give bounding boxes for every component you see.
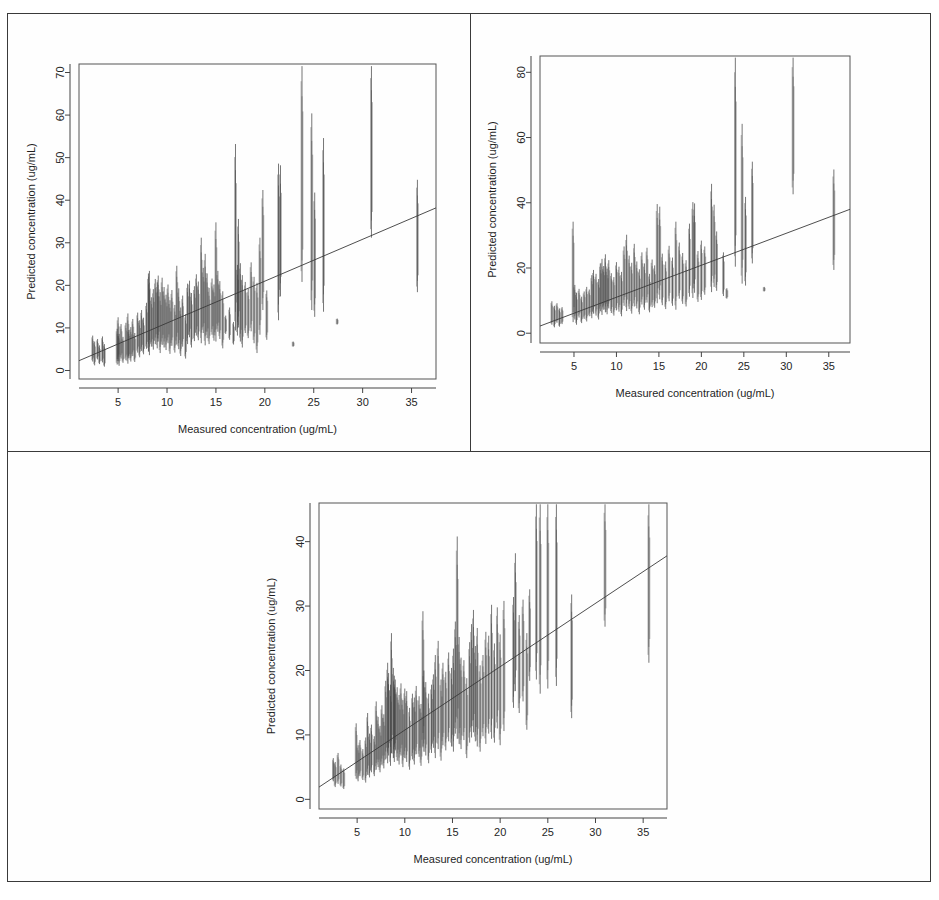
chart-panel-bottom: 5101520253035010203040Measured concentra…	[8, 453, 932, 881]
scatter-plot-svg-3: 5101520253035010203040Measured concentra…	[8, 453, 932, 881]
x-tick-label: 5	[115, 396, 121, 408]
regression-line	[79, 208, 436, 361]
x-tick-label: 20	[695, 360, 707, 372]
y-axis-title: Predicted concentration (ug/mL)	[265, 578, 277, 735]
errorbar-series	[551, 58, 835, 328]
y-tick-label: 0	[54, 367, 66, 373]
x-tick-label: 5	[571, 360, 577, 372]
scatter-plot-svg-1: 5101520253035010203040506070Measured con…	[8, 14, 470, 451]
y-tick-label: 30	[54, 237, 66, 249]
y-tick-label: 20	[54, 279, 66, 291]
y-axis-title: Predicted concentration (ug/mL)	[486, 121, 498, 278]
y-tick-label: 70	[54, 66, 66, 78]
y-tick-label: 40	[294, 536, 306, 548]
x-tick-label: 30	[357, 396, 369, 408]
y-tick-label: 20	[294, 664, 306, 676]
y-tick-label: 50	[54, 152, 66, 164]
x-tick-label: 20	[259, 396, 271, 408]
x-tick-label: 35	[405, 396, 417, 408]
x-tick-label: 5	[354, 826, 360, 838]
figure-frame: 5101520253035010203040506070Measured con…	[7, 13, 931, 882]
regression-line	[540, 209, 850, 326]
y-tick-label: 80	[515, 66, 527, 78]
x-tick-label: 30	[780, 360, 792, 372]
errorbar-series	[92, 66, 419, 367]
x-axis-title: Measured concentration (ug/mL)	[616, 387, 775, 399]
x-tick-label: 25	[542, 826, 554, 838]
regression-line	[319, 556, 667, 787]
x-axis-title: Measured concentration (ug/mL)	[414, 853, 573, 865]
y-tick-label: 40	[54, 194, 66, 206]
x-tick-label: 35	[637, 826, 649, 838]
panel-divider-horizontal	[8, 451, 930, 452]
y-tick-label: 20	[515, 262, 527, 274]
y-tick-label: 10	[54, 322, 66, 334]
y-tick-label: 30	[294, 600, 306, 612]
y-axis-title: Predicted concentration (ug/mL)	[25, 143, 37, 300]
y-tick-label: 60	[515, 131, 527, 143]
x-axis-title: Measured concentration (ug/mL)	[178, 423, 337, 435]
chart-panel-top-left: 5101520253035010203040506070Measured con…	[8, 14, 470, 451]
panel-divider-vertical	[470, 14, 471, 451]
y-tick-label: 0	[515, 330, 527, 336]
x-tick-label: 30	[589, 826, 601, 838]
y-tick-label: 60	[54, 109, 66, 121]
x-tick-label: 25	[738, 360, 750, 372]
x-tick-label: 35	[823, 360, 835, 372]
x-tick-label: 15	[446, 826, 458, 838]
y-tick-label: 40	[515, 197, 527, 209]
x-tick-label: 15	[210, 396, 222, 408]
y-tick-label: 10	[294, 729, 306, 741]
scatter-plot-svg-2: 5101520253035020406080Measured concentra…	[472, 14, 932, 451]
y-tick-label: 0	[294, 796, 306, 802]
x-tick-label: 10	[399, 826, 411, 838]
x-tick-label: 10	[161, 396, 173, 408]
x-tick-label: 10	[610, 360, 622, 372]
x-tick-label: 15	[653, 360, 665, 372]
x-tick-label: 20	[494, 826, 506, 838]
chart-panel-top-right: 5101520253035020406080Measured concentra…	[472, 14, 932, 451]
x-tick-label: 25	[308, 396, 320, 408]
